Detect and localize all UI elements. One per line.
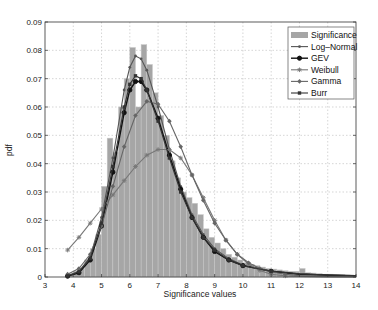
dot-marker — [134, 55, 137, 58]
x-tick-label: 11 — [267, 281, 276, 290]
star-marker — [77, 235, 82, 240]
square-marker — [202, 236, 205, 239]
circle-marker — [133, 79, 137, 83]
dot-marker — [298, 45, 301, 48]
square-marker — [100, 221, 103, 224]
square-marker — [241, 264, 244, 267]
legend-swatch-histogram — [291, 32, 308, 38]
y-tick-label: 0.04 — [26, 160, 42, 169]
square-marker — [190, 216, 193, 219]
square-marker — [269, 270, 272, 273]
star-marker — [99, 207, 104, 212]
square-marker — [139, 77, 142, 80]
star-marker — [156, 147, 161, 152]
x-tick-label: 3 — [43, 281, 48, 290]
square-marker — [145, 88, 148, 91]
histogram-bar — [135, 107, 141, 277]
pdf-chart: 34567891011121314 00.010.020.030.040.050… — [0, 0, 378, 310]
x-tick-label: 6 — [128, 281, 133, 290]
histogram-bar — [158, 116, 164, 278]
legend-label: Gamma — [311, 76, 342, 86]
x-tick-label: 7 — [156, 281, 161, 290]
star-marker — [144, 153, 149, 158]
square-marker — [168, 156, 171, 159]
square-marker — [227, 258, 230, 261]
dot-marker — [145, 69, 148, 72]
y-axis-label: pdf — [4, 143, 14, 155]
x-tick-label: 5 — [99, 281, 104, 290]
square-marker — [134, 74, 137, 77]
y-tick-label: 0.03 — [26, 188, 42, 197]
dot-marker — [140, 57, 143, 60]
legend-label: GEV — [311, 53, 329, 63]
square-marker — [77, 270, 80, 273]
y-tick-label: 0.05 — [26, 131, 42, 140]
dot-marker — [128, 66, 131, 69]
square-marker — [122, 105, 125, 108]
histogram-bar — [181, 192, 187, 277]
star-marker — [133, 164, 138, 169]
star-marker — [178, 156, 183, 161]
square-marker — [179, 190, 182, 193]
y-tick-label: 0.06 — [26, 103, 42, 112]
y-tick-label: 0.02 — [26, 216, 42, 225]
legend-label: Weibull — [311, 65, 339, 75]
histogram-bar — [169, 161, 175, 277]
star-marker — [88, 221, 93, 226]
x-tick-label: 4 — [71, 281, 76, 290]
x-tick-label: 12 — [295, 281, 304, 290]
histogram-bar — [198, 215, 204, 277]
legend: SignificanceLog–NormalGEVWeibullGammaBur… — [288, 27, 357, 99]
legend-label: Significance — [311, 30, 357, 40]
star-marker — [122, 178, 127, 183]
y-tick-label: 0.08 — [26, 46, 42, 55]
square-marker — [298, 91, 301, 94]
x-tick-label: 14 — [352, 281, 361, 290]
x-axis-label: Significance values — [164, 289, 237, 299]
dot-marker — [123, 89, 126, 92]
circle-marker — [297, 56, 301, 60]
x-tick-label: 10 — [238, 281, 247, 290]
star-marker — [297, 68, 302, 73]
star-marker — [65, 248, 70, 253]
square-marker — [156, 119, 159, 122]
x-tick-label: 13 — [323, 281, 332, 290]
y-tick-label: 0.07 — [26, 75, 42, 84]
square-marker — [213, 248, 216, 251]
legend-label: Log–Normal — [311, 42, 357, 52]
y-tick-label: 0 — [38, 273, 43, 282]
y-tick-label: 0.01 — [26, 245, 42, 254]
square-marker — [111, 165, 114, 168]
y-tick-label: 0.09 — [26, 18, 42, 27]
square-marker — [89, 257, 92, 260]
legend-label: Burr — [311, 88, 327, 98]
square-marker — [128, 83, 131, 86]
